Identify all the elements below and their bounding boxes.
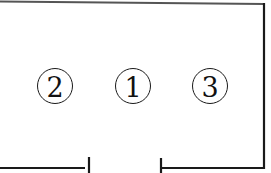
label-1-text: 1 xyxy=(124,74,141,101)
label-3-text: 3 xyxy=(201,74,218,101)
circled-label-3: 3 xyxy=(192,68,228,104)
top-wire xyxy=(0,2,264,5)
label-2-text: 2 xyxy=(46,74,63,101)
circuit-diagram: 2 1 3 xyxy=(0,0,271,173)
circled-label-2: 2 xyxy=(37,68,73,104)
circled-label-1: 1 xyxy=(115,68,151,104)
